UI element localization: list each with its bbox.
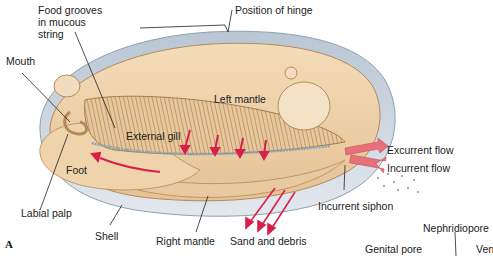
label-food-grooves-line3: string [38, 28, 102, 40]
anterior-adductor [54, 75, 80, 97]
label-food-grooves: Food grooves in mucous string [38, 4, 102, 40]
label-nephridiopore: Nephridiopore [423, 222, 489, 234]
debris-particles [377, 173, 419, 193]
label-position-of-hinge: Position of hinge [235, 4, 313, 16]
label-incurrent-siphon: Incurrent siphon [318, 200, 393, 212]
label-genital-pore: Genital pore [365, 243, 422, 255]
label-foot: Foot [66, 164, 87, 176]
label-ven-partial: Ven [476, 243, 493, 255]
clam-anatomy-diagram: Food grooves in mucous string Position o… [0, 0, 493, 256]
label-right-mantle: Right mantle [156, 235, 215, 247]
panel-letter: A [5, 238, 13, 250]
label-incurrent-flow: Incurrent flow [387, 162, 450, 174]
label-labial-palp: Labial palp [21, 207, 72, 219]
label-left-mantle: Left mantle [214, 93, 266, 105]
label-excurrent-flow: Excurrent flow [387, 144, 454, 156]
label-food-grooves-line2: in mucous [38, 16, 102, 28]
label-sand-and-debris: Sand and debris [230, 235, 306, 247]
label-mouth: Mouth [6, 55, 35, 67]
label-shell: Shell [95, 230, 118, 242]
posterior-adductor [278, 82, 330, 130]
posterior-retractor [285, 67, 297, 79]
label-food-grooves-line1: Food grooves [38, 4, 102, 16]
label-external-gill: External gill [126, 130, 180, 142]
